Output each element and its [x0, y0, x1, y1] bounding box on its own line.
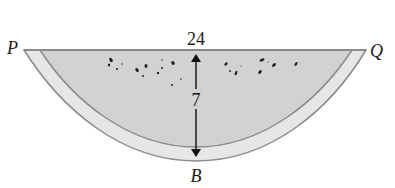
label-depth: 7: [192, 90, 201, 110]
label-b: B: [191, 166, 202, 186]
label-chord-length: 24: [187, 29, 205, 49]
watermelon-diagram: P Q 24 7 B: [0, 0, 395, 188]
label-q: Q: [370, 41, 383, 61]
label-p: P: [6, 38, 18, 58]
